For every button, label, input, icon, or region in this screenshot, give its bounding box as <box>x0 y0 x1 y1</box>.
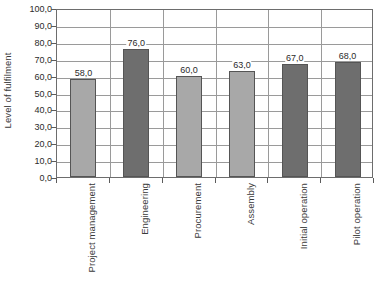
y-axis-tick-label: 40,0 <box>34 105 52 115</box>
bar <box>229 71 255 177</box>
y-axis-tick-mark <box>51 161 56 162</box>
bar-value-label: 63,0 <box>232 60 252 70</box>
y-axis-tick-label: 70,0 <box>34 55 52 65</box>
y-axis-tick-label: 90,0 <box>34 21 52 31</box>
bar <box>123 49 149 177</box>
y-axis-title: Level of fulfilment <box>0 0 16 180</box>
bar-chart-figure: Level of fulfilment 100,090,080,070,060,… <box>0 0 383 288</box>
y-axis-tick-label: 50,0 <box>34 89 52 99</box>
x-axis-category-label: Project management <box>86 183 97 272</box>
y-axis-title-text: Level of fulfilment <box>3 52 14 128</box>
bar <box>70 79 96 177</box>
bar-value-label: 76,0 <box>126 38 146 48</box>
y-axis-tick-mark <box>51 9 56 10</box>
y-axis-tick-label: 80,0 <box>34 38 52 48</box>
y-axis-tick-label: 20,0 <box>34 139 52 149</box>
y-axis-tick-mark <box>51 144 56 145</box>
bar-value-label: 58,0 <box>74 68 94 78</box>
y-axis-tick-mark <box>51 60 56 61</box>
y-axis-tick-mark <box>51 127 56 128</box>
y-axis-tick-label: 100,0 <box>29 4 52 14</box>
bar <box>176 76 202 177</box>
bars-layer: 58,076,060,063,067,068,0 <box>57 10 372 177</box>
bar-value-label: 67,0 <box>285 53 305 63</box>
y-axis-tick-label: 10,0 <box>34 156 52 166</box>
y-axis-tick-mark <box>51 110 56 111</box>
y-axis-tick-label: 30,0 <box>34 122 52 132</box>
x-axis-category-label: Engineering <box>139 183 150 235</box>
plot-area: 58,076,060,063,067,068,0 <box>56 9 373 178</box>
y-axis-tick-labels: 100,090,080,070,060,050,040,030,020,010,… <box>16 9 54 178</box>
x-axis-category-labels: Project managementEngineeringProcurement… <box>56 183 373 288</box>
x-axis-category-label: Assembly <box>245 183 256 225</box>
x-axis-category-label: Procurement <box>192 183 203 238</box>
y-axis-tick-label: 60,0 <box>34 72 52 82</box>
y-axis-tick-mark <box>51 77 56 78</box>
bar-value-label: 60,0 <box>179 65 199 75</box>
bar <box>282 64 308 177</box>
x-axis-tick-mark <box>373 178 374 183</box>
y-axis-tick-mark <box>51 26 56 27</box>
bar <box>335 62 361 177</box>
x-axis-category-label: Pilot operation <box>351 183 362 245</box>
bar-value-label: 68,0 <box>338 51 358 61</box>
y-axis-tick-mark <box>51 94 56 95</box>
y-axis-tick-mark <box>51 43 56 44</box>
x-axis-category-label: Initial operation <box>298 183 309 249</box>
